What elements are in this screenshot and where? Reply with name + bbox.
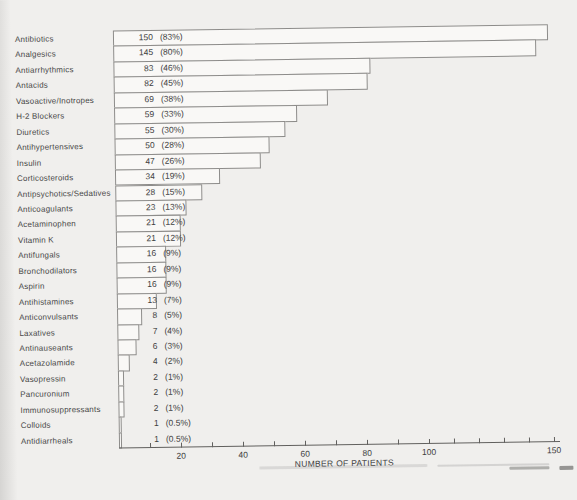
value-label: 13: [130, 293, 157, 309]
x-axis-tick-label: 150: [547, 445, 561, 455]
x-axis-tick-label: 60: [300, 449, 310, 459]
category-label: Anticonvulsants: [19, 309, 78, 325]
value-label: 21: [129, 215, 156, 231]
value-label: 28: [128, 184, 155, 200]
x-axis-tick: [181, 443, 182, 448]
x-axis-tick: [305, 441, 306, 446]
category-label: Colloids: [21, 418, 51, 434]
category-label: Vasoactive/Inotropes: [16, 93, 94, 110]
category-label: H-2 Blockers: [16, 109, 64, 125]
value-label: 2: [131, 401, 158, 417]
percent-label: (80%): [160, 45, 183, 61]
value-label: 69: [127, 92, 154, 108]
value-label: 55: [127, 123, 154, 139]
x-axis-tick: [479, 438, 480, 443]
value-label: 4: [131, 354, 158, 370]
x-axis-tick: [504, 438, 505, 443]
x-axis-tick-label: 40: [238, 450, 248, 460]
x-axis-ticks: 20406080100150: [0, 0, 573, 4]
category-label: Diuretics: [16, 124, 49, 140]
percent-label: (5%): [164, 308, 182, 324]
percent-label: (19%): [162, 169, 185, 185]
x-axis-tick-label: 20: [176, 451, 186, 461]
percent-label: (2%): [165, 354, 183, 370]
percent-label: (46%): [160, 60, 183, 76]
percent-label: (3%): [164, 339, 182, 355]
percent-label: (9%): [163, 261, 181, 277]
percent-label: (15%): [162, 184, 185, 200]
category-label: Antacids: [16, 78, 49, 94]
category-label: Antifungals: [18, 248, 60, 264]
percent-label: (26%): [162, 153, 185, 169]
category-label: Bronchodilators: [18, 263, 77, 279]
value-label: 2: [131, 370, 158, 386]
value-label: 2: [131, 385, 158, 401]
percent-label: (1%): [165, 385, 183, 401]
percent-label: (1%): [165, 400, 183, 416]
percent-label: (0.5%): [166, 431, 191, 447]
value-label: 83: [126, 61, 153, 77]
value-label: 34: [128, 169, 155, 185]
category-labels-column: AntibioticsAnalgesicsAntiarrhythmicsAnta…: [15, 31, 111, 32]
category-label: Antihistamines: [19, 294, 74, 310]
value-label: 8: [130, 308, 157, 324]
category-label: Antihypertensives: [16, 139, 83, 155]
value-label: 16: [129, 246, 156, 262]
value-label: 1: [132, 416, 159, 432]
x-axis-tick: [243, 442, 244, 447]
x-axis-tick-label: 100: [422, 447, 436, 457]
value-label: 16: [129, 262, 156, 278]
category-label: Immunosuppressants: [20, 402, 100, 419]
value-label: 145: [126, 45, 153, 61]
category-label: Laxatives: [19, 325, 55, 341]
value-label: 47: [128, 154, 155, 170]
percent-label: (38%): [161, 91, 184, 107]
percent-label: (9%): [163, 246, 181, 262]
value-label: 59: [127, 107, 154, 123]
percent-label: (7%): [164, 292, 182, 308]
category-label: Antinauseants: [19, 340, 73, 356]
category-label: Anticoagulants: [17, 201, 73, 217]
x-axis-tick-label: 80: [362, 448, 372, 458]
percent-label: (1%): [165, 369, 183, 385]
percent-label: (4%): [164, 323, 182, 339]
x-axis-tick: [367, 440, 368, 445]
x-axis-tick: [336, 440, 337, 445]
x-axis-tick: [398, 439, 399, 444]
percent-label: (9%): [164, 277, 182, 293]
value-label: 7: [130, 324, 157, 340]
value-label: 16: [130, 277, 157, 293]
x-axis-tick: [529, 437, 530, 442]
category-label: Corticosteroids: [17, 170, 74, 186]
category-label: Vasopressin: [20, 371, 66, 387]
x-axis-tick: [429, 439, 430, 444]
value-label: 1: [132, 432, 159, 448]
category-label: Insulin: [17, 155, 42, 171]
category-label: Antibiotics: [15, 31, 54, 47]
category-label: Antipsychotics/Sedatives: [17, 185, 111, 202]
value-label: 150: [126, 30, 153, 46]
value-label: 21: [129, 231, 156, 247]
percent-label: (30%): [161, 122, 184, 138]
scan-artifact: [559, 466, 573, 470]
percent-label: (83%): [160, 30, 183, 46]
x-axis-tick: [212, 442, 213, 447]
x-axis-tick: [454, 439, 455, 444]
percent-label: (33%): [161, 107, 184, 123]
percent-label: (0.5%): [166, 416, 191, 432]
category-label: Antiarrhythmics: [15, 62, 73, 78]
bar-chart-figure: AntibioticsAnalgesicsAntiarrhythmicsAnta…: [0, 0, 577, 485]
value-label: 23: [128, 200, 155, 216]
category-label: Analgesics: [15, 47, 56, 63]
percent-label: (13%): [162, 199, 185, 215]
percent-label: (12%): [163, 215, 186, 231]
x-axis-tick: [554, 437, 555, 442]
percent-label: (28%): [161, 138, 184, 154]
x-axis-tick: [274, 441, 275, 446]
percent-label: (45%): [161, 76, 184, 92]
category-label: Pancuronium: [20, 387, 70, 403]
scan-artifact: [259, 464, 427, 469]
category-label: Acetazolamide: [20, 356, 75, 372]
value-label: 50: [127, 138, 154, 154]
category-label: Vitamin K: [18, 232, 54, 248]
